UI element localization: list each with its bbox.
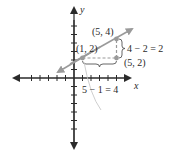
coordinate-plane: y x (1, 2) (5, 4) (5, 2) 4 − 2 = 2 5 − 1…: [0, 0, 179, 156]
run-label: 5 − 1 = 4: [82, 84, 118, 95]
x-axis-label: x: [133, 80, 139, 91]
rise-label: 4 − 2 = 2: [127, 43, 163, 54]
y-axis-label: y: [79, 4, 85, 15]
point-5-2: [114, 56, 119, 61]
point-1-2: [80, 56, 85, 61]
point-label-5-2: (5, 2): [124, 57, 146, 69]
point-label-5-4: (5, 4): [92, 26, 114, 38]
run-brace: [83, 61, 117, 67]
rise-brace: [119, 39, 125, 58]
point-label-1-2: (1, 2): [76, 43, 98, 55]
point-5-4: [114, 37, 119, 42]
